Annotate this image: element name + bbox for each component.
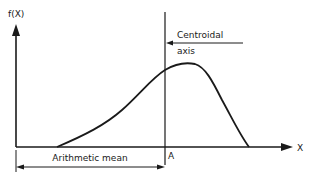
y-axis — [12, 24, 20, 147]
arrow-left-icon — [166, 41, 173, 46]
diagram-canvas: f(X) X Centroidal axis A Arithmetic mean — [0, 0, 309, 182]
centroidal-axis-pointer — [166, 41, 243, 46]
arrow-right-icon — [157, 165, 165, 170]
x-axis-label: X — [297, 143, 303, 153]
centroidal-label-line1: Centroidal — [177, 30, 223, 40]
y-axis-label: f(X) — [8, 9, 24, 19]
y-axis-arrow-icon — [12, 24, 20, 36]
distribution-curve — [57, 63, 249, 147]
arithmetic-mean-label: Arithmetic mean — [52, 153, 127, 163]
point-a-label: A — [168, 151, 175, 161]
arrow-left-icon — [16, 165, 24, 170]
centroidal-label-line2: axis — [177, 46, 195, 56]
x-axis-arrow-icon — [281, 143, 293, 151]
